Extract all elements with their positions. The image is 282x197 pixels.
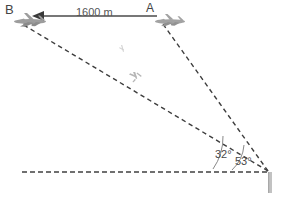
airplane-icon-small: [129, 72, 142, 82]
label-angle-32: 32°: [215, 148, 232, 160]
small-mark-icon: [119, 45, 124, 52]
diagram-canvas: B A 1600 m 32° 53°: [0, 0, 282, 197]
airplane-icon-a: [155, 14, 185, 26]
tower-shadow: [268, 172, 269, 193]
label-distance: 1600 m: [76, 6, 113, 18]
label-plane-b: B: [5, 2, 14, 17]
geometry-svg: [0, 0, 282, 197]
label-angle-53: 53°: [235, 155, 252, 167]
label-plane-a: A: [146, 1, 154, 15]
